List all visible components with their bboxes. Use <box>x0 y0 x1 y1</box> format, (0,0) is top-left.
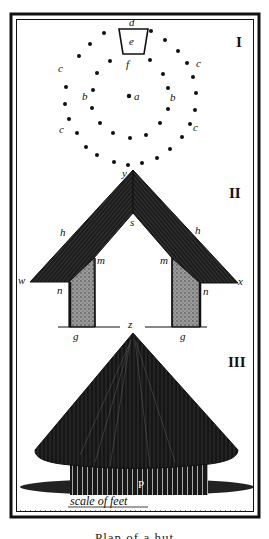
label-c-left: c <box>59 123 64 135</box>
section-3-elevation: P <box>20 333 254 495</box>
section-numeral-3: III <box>228 354 246 370</box>
label-g-left: g <box>73 330 79 342</box>
label-m-left: m <box>97 254 105 266</box>
center-post <box>127 94 131 98</box>
label-n-left: n <box>57 284 63 296</box>
label-e: e <box>129 35 134 47</box>
label-y: y <box>121 167 127 179</box>
label-b-left: b <box>82 90 88 102</box>
roof-right-slope <box>133 170 238 283</box>
label-n-right: n <box>203 285 209 297</box>
label-a: a <box>134 90 140 102</box>
label-m-right: m <box>160 254 168 266</box>
label-w: w <box>18 274 26 286</box>
inner-post-ring <box>90 58 170 140</box>
section-2-cross-section: y s h h m m w x n n z g g <box>18 167 243 342</box>
label-c-bottom-right: c <box>193 121 198 133</box>
section-numeral-1: I <box>236 34 242 50</box>
roof-left-slope <box>30 170 133 282</box>
scale-label: scale of feet <box>70 494 128 508</box>
section-numeral-2: II <box>229 185 241 201</box>
label-f: f <box>126 58 131 70</box>
label-g-right: g <box>180 330 186 342</box>
label-b-right: b <box>170 91 176 103</box>
section-1-ground-plan: d e f a b b c c c c <box>58 16 201 167</box>
scale-bar: scale of feet <box>20 494 250 511</box>
label-h-left: h <box>60 226 66 238</box>
label-s: s <box>130 216 134 228</box>
label-d: d <box>129 16 135 28</box>
label-h-right: h <box>195 224 201 236</box>
label-c-top-right: c <box>196 57 201 69</box>
plate-caption: Plan of a hut <box>0 529 269 539</box>
hut-plate-engraving: I II III d e f a b b c c c c <box>0 0 269 539</box>
label-c-top-left: c <box>58 62 63 74</box>
label-p: P <box>138 478 144 490</box>
label-z: z <box>127 318 133 330</box>
label-x: x <box>237 275 243 287</box>
